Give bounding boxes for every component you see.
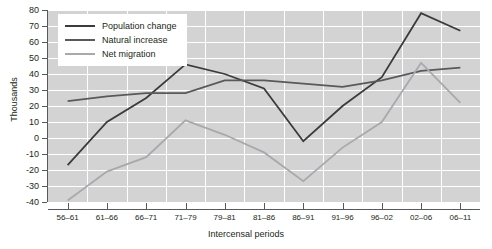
- x-axis-tick: [382, 203, 383, 209]
- x-axis-tick: [264, 203, 265, 209]
- legend-swatch-natural-increase: [65, 39, 95, 41]
- x-axis-line: [48, 209, 480, 210]
- y-axis-tick: [42, 186, 47, 187]
- legend-swatch-population-change: [65, 25, 95, 27]
- legend-item-natural-increase: Natural increase: [65, 33, 177, 47]
- y-axis-tick-label: -30: [0, 182, 39, 191]
- y-axis-tick-label: 40: [0, 70, 39, 79]
- x-axis-title: Intercensal periods: [0, 230, 492, 239]
- y-axis-tick-label: -10: [0, 150, 39, 159]
- y-axis-tick: [42, 122, 47, 123]
- y-axis-line: [47, 10, 48, 202]
- y-axis-tick: [42, 138, 47, 139]
- legend-label-population-change: Population change: [102, 21, 177, 31]
- y-axis-title: Thousands: [10, 30, 19, 170]
- y-axis-tick: [42, 154, 47, 155]
- y-axis-tick-label: 20: [0, 102, 39, 111]
- y-axis-tick-label: -40: [0, 198, 39, 207]
- series-line-natural-increase: [68, 68, 461, 102]
- x-axis-tick: [107, 203, 108, 209]
- legend-item-net-migration: Net migration: [65, 47, 177, 61]
- y-axis-tick: [42, 74, 47, 75]
- y-axis-tick: [42, 10, 47, 11]
- x-axis-tick: [460, 203, 461, 209]
- y-axis-tick-label: 60: [0, 38, 39, 47]
- x-axis-tick: [225, 203, 226, 209]
- y-axis-tick: [42, 58, 47, 59]
- y-axis-tick-label: 30: [0, 86, 39, 95]
- x-axis-tick-label: 06–11: [437, 213, 483, 222]
- y-axis-tick: [42, 42, 47, 43]
- y-axis-tick: [42, 106, 47, 107]
- x-axis-tick: [343, 203, 344, 209]
- y-axis-tick: [42, 170, 47, 171]
- y-axis-tick-label: 70: [0, 22, 39, 31]
- y-axis-tick-label: 80: [0, 6, 39, 15]
- y-axis-tick-label: 10: [0, 118, 39, 127]
- y-axis-tick: [42, 26, 47, 27]
- y-axis-tick-label: 50: [0, 54, 39, 63]
- chart-root: 80706050403020100-10-20-30-40 56–6161–66…: [0, 0, 492, 249]
- legend-swatch-net-migration: [65, 53, 95, 55]
- x-axis-tick: [421, 203, 422, 209]
- legend-label-net-migration: Net migration: [102, 49, 156, 59]
- y-axis-tick-label: -20: [0, 166, 39, 175]
- series-line-net-migration: [68, 63, 461, 201]
- chart-legend: Population change Natural increase Net m…: [58, 14, 187, 66]
- y-axis-tick: [42, 90, 47, 91]
- x-axis-tick: [68, 203, 69, 209]
- x-axis-tick: [303, 203, 304, 209]
- y-axis-tick: [42, 202, 47, 203]
- legend-label-natural-increase: Natural increase: [102, 35, 168, 45]
- y-axis-tick-label: 0: [0, 134, 39, 143]
- x-axis-tick: [186, 203, 187, 209]
- x-axis-tick: [146, 203, 147, 209]
- legend-item-population-change: Population change: [65, 19, 177, 33]
